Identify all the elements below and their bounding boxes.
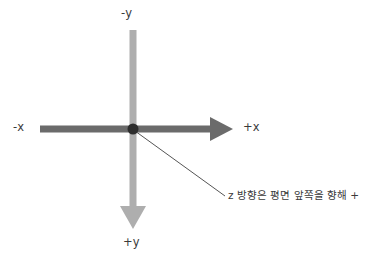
- z-direction-annotation: z 방향은 평면 앞쪽을 향해 +: [228, 189, 359, 202]
- x-axis-arrowhead-icon: [210, 117, 233, 141]
- axis-label-negative-x: -x: [13, 122, 24, 134]
- coordinate-axes-diagram: -y -x +x +y z 방향은 평면 앞쪽을 향해 +: [0, 0, 376, 262]
- y-axis-shaft: [130, 30, 137, 212]
- axis-label-negative-y: -y: [121, 8, 132, 20]
- y-axis-arrowhead-icon: [120, 206, 146, 229]
- z-direction-leader-line: [135, 131, 225, 196]
- axis-label-positive-y: +y: [123, 237, 140, 249]
- origin-dot: [128, 124, 139, 135]
- axis-label-positive-x: +x: [243, 122, 260, 134]
- x-axis-shaft: [40, 126, 213, 133]
- axes-canvas: [0, 0, 376, 262]
